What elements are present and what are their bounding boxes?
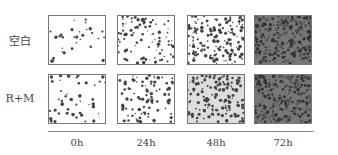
micrograph-1-72h	[254, 74, 312, 124]
time-label-24h: 24h	[117, 137, 175, 148]
time-label-48h: 48h	[187, 137, 245, 148]
row-label-rm: R+M	[0, 92, 40, 105]
micrograph-1-0h	[48, 74, 106, 124]
micrograph-0-24h	[117, 15, 175, 65]
micrograph-1-48h	[187, 74, 245, 124]
micrograph-0-48h	[187, 15, 245, 65]
time-axis-line	[48, 131, 314, 132]
micrograph-1-24h	[117, 74, 175, 124]
micrograph-0-0h	[48, 15, 106, 65]
row-label-blank: 空白	[0, 32, 40, 48]
time-label-72h: 72h	[254, 137, 312, 148]
micrograph-0-72h	[254, 15, 312, 65]
time-label-0h: 0h	[48, 137, 106, 148]
